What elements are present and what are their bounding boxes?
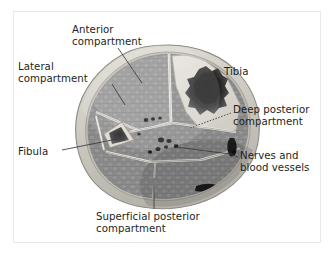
anatomy-figure: Anterior compartment Lateral compartment…: [0, 0, 336, 256]
label-nerves-and-blood-vessels: Nerves and blood vessels: [240, 150, 309, 173]
label-nerves-line1: Nerves and: [240, 150, 309, 162]
label-lateral-compartment: Lateral compartment: [18, 61, 88, 84]
label-deep-posterior-compartment: Deep posterior compartment: [233, 104, 310, 127]
label-superficial-line1: Superficial posterior: [96, 211, 200, 223]
label-nerves-line2: blood vessels: [240, 162, 309, 174]
label-tibia-line1: Tibia: [224, 66, 249, 78]
label-superficial-line2: compartment: [96, 223, 200, 235]
label-anterior-compartment: Anterior compartment: [72, 24, 142, 47]
label-deep-line1: Deep posterior: [233, 104, 310, 116]
label-lateral-line1: Lateral: [18, 61, 88, 73]
label-anterior-line1: Anterior: [72, 24, 142, 36]
label-fibula: Fibula: [18, 146, 48, 158]
label-tibia: Tibia: [224, 66, 249, 78]
label-lateral-line2: compartment: [18, 73, 88, 85]
label-fibula-line1: Fibula: [18, 146, 48, 158]
label-superficial-posterior-compartment: Superficial posterior compartment: [96, 211, 200, 234]
label-anterior-line2: compartment: [72, 36, 142, 48]
label-deep-line2: compartment: [233, 116, 310, 128]
